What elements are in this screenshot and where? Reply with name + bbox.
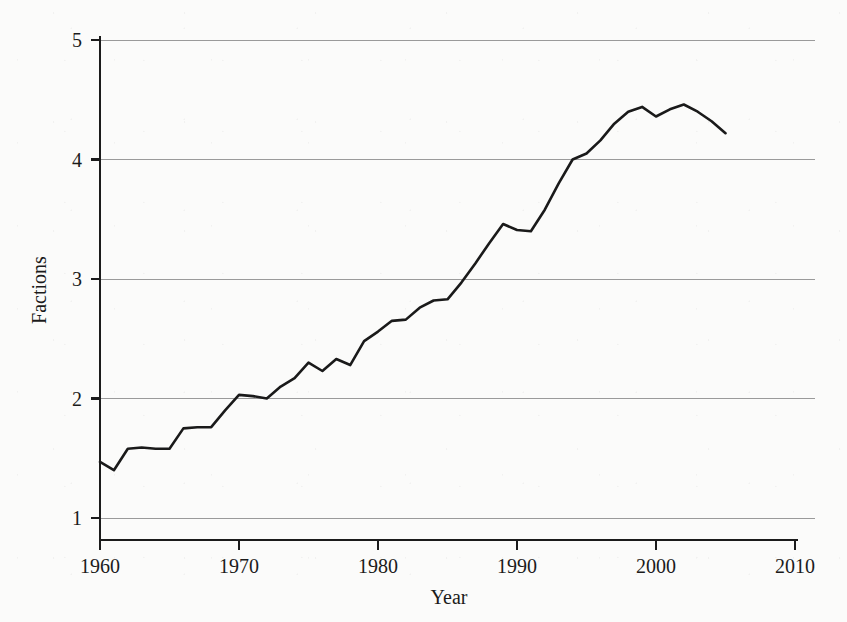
y-tick-label-5: 5 bbox=[72, 29, 82, 51]
y-tick-label-1: 1 bbox=[72, 507, 82, 529]
x-axis-title: Year bbox=[431, 586, 468, 608]
x-tick-label-2000: 2000 bbox=[636, 555, 676, 577]
x-tick-label-1960: 1960 bbox=[80, 555, 120, 577]
y-tick-label-group: 12345 bbox=[72, 29, 82, 529]
line-chart-svg: 12345 196019701980199020002010 Factions … bbox=[0, 0, 847, 622]
x-tick-label-1970: 1970 bbox=[219, 555, 259, 577]
y-tick-label-4: 4 bbox=[72, 149, 82, 171]
chart-figure: 12345 196019701980199020002010 Factions … bbox=[0, 0, 847, 622]
y-axis-title: Factions bbox=[28, 256, 50, 324]
x-tick-label-1980: 1980 bbox=[358, 555, 398, 577]
y-tick-label-2: 2 bbox=[72, 388, 82, 410]
gridlines-group bbox=[100, 40, 815, 518]
axes-lines-group bbox=[99, 36, 798, 540]
x-tick-label-1990: 1990 bbox=[497, 555, 537, 577]
y-tick-label-3: 3 bbox=[72, 268, 82, 290]
x-tick-label-2010: 2010 bbox=[775, 555, 815, 577]
y-tick-group bbox=[91, 40, 100, 518]
x-tick-group bbox=[100, 540, 795, 550]
x-tick-label-group: 196019701980199020002010 bbox=[80, 555, 815, 577]
